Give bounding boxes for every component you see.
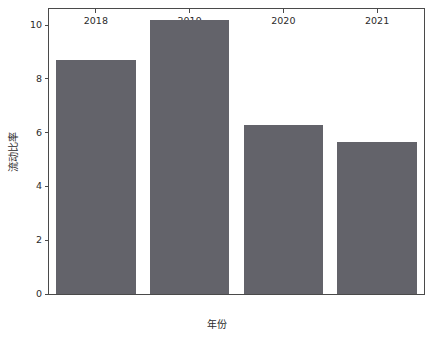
bar-2019 [150, 20, 230, 294]
y-tick-label: 10 [30, 18, 42, 32]
y-tick-label: 4 [36, 179, 42, 193]
bar-2021 [337, 142, 417, 294]
bar-2020 [244, 125, 324, 294]
y-tick-label: 8 [36, 72, 42, 86]
y-tick-label: 2 [36, 233, 42, 247]
y-tick-label: 0 [36, 287, 42, 301]
chart-figure: 流动比率 0246810 2018201920202021 年份 [0, 0, 434, 341]
y-axis-title-container: 流动比率 [0, 0, 24, 303]
x-axis-title: 年份 [0, 316, 434, 331]
bars-layer [49, 9, 424, 294]
bar-2018 [56, 60, 136, 294]
y-tick-label: 6 [36, 126, 42, 140]
y-axis-title: 流动比率 [5, 132, 20, 172]
plot-area: 0246810 2018201920202021 [48, 8, 425, 295]
